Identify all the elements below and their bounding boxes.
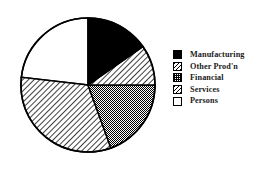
legend-label-persons: Persons [190, 95, 218, 107]
chart-legend: Manufacturing Other Prod'n Financial Ser… [173, 49, 265, 107]
legend-label-services: Services [190, 84, 219, 96]
legend-item-manufacturing: Manufacturing [173, 49, 265, 61]
legend-swatch-persons-icon [173, 97, 182, 106]
legend-swatch-financial-icon [173, 73, 182, 82]
legend-item-other-prodn: Other Prod'n [173, 61, 265, 73]
legend-swatch-services-icon [173, 85, 182, 94]
legend-swatch-manufacturing-icon [173, 50, 182, 59]
pie-slice-persons [21, 18, 88, 85]
legend-label-other-prodn: Other Prod'n [190, 61, 238, 73]
legend-item-financial: Financial [173, 72, 265, 84]
legend-item-services: Services [173, 84, 265, 96]
pie-chart-figure: Manufacturing Other Prod'n Financial Ser… [0, 0, 266, 172]
legend-swatch-other-prodn-icon [173, 62, 182, 71]
legend-item-persons: Persons [173, 95, 265, 107]
legend-label-manufacturing: Manufacturing [190, 49, 245, 61]
legend-label-financial: Financial [190, 72, 224, 84]
